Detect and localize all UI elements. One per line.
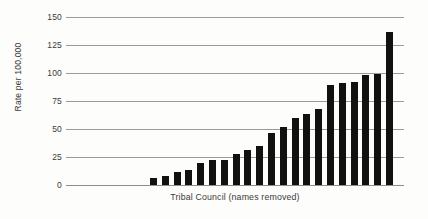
bar (197, 163, 204, 185)
bar (268, 133, 275, 185)
bar (327, 85, 334, 185)
bar (150, 178, 157, 185)
y-axis-tick-label: 100 (22, 69, 62, 78)
gridline (66, 17, 404, 18)
bar (362, 75, 369, 185)
y-axis-tick-label: 125 (22, 41, 62, 50)
y-axis-tick-label: 0 (22, 181, 62, 190)
bar (280, 127, 287, 185)
bar (339, 83, 346, 185)
bar (303, 114, 310, 185)
bar (185, 170, 192, 185)
bar (162, 176, 169, 185)
y-axis-tick-label: 150 (22, 13, 62, 22)
bar (374, 74, 381, 185)
y-axis-tick-label: 75 (22, 97, 62, 106)
y-axis-tick-label: 25 (22, 153, 62, 162)
y-axis-title-container: Rate per 100,000 (0, 0, 20, 219)
bar (221, 160, 228, 185)
gridline (66, 45, 404, 46)
bar (386, 32, 393, 185)
bar (351, 82, 358, 185)
x-axis-title: Tribal Council (names removed) (66, 192, 404, 202)
gridline (66, 73, 404, 74)
gridline (66, 185, 404, 186)
bar (292, 118, 299, 185)
bar (209, 160, 216, 185)
bar (233, 154, 240, 185)
y-axis-tick-labels: 1501251007550250 (18, 17, 62, 185)
bar (244, 150, 251, 185)
bar (256, 146, 263, 185)
y-axis-tick-label: 50 (22, 125, 62, 134)
chart-screenshot: Rate per 100,000 1501251007550250 Tribal… (0, 0, 428, 219)
bar (315, 109, 322, 185)
bar (174, 172, 181, 185)
plot-area (66, 17, 404, 185)
